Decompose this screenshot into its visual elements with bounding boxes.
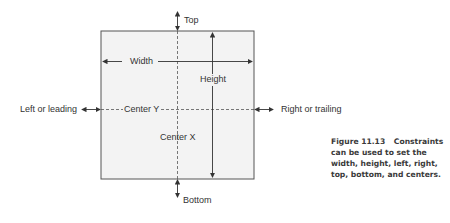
center-y-label: Center Y <box>123 105 160 114</box>
top-label: Top <box>184 16 199 25</box>
figure-number: Figure 11.13 <box>331 137 385 146</box>
center-x-label: Center X <box>160 133 196 142</box>
left-label: Left or leading <box>20 105 77 114</box>
bottom-label: Bottom <box>183 196 212 205</box>
right-label: Right or trailing <box>281 105 342 114</box>
width-label: Width <box>129 57 154 66</box>
figure-caption: Figure 11.13 Constraints can be used to … <box>331 136 447 180</box>
height-label: Height <box>199 74 227 85</box>
